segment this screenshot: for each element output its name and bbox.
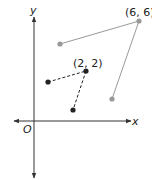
gray-point-vertex [136, 18, 141, 23]
black-segment [48, 71, 86, 82]
black-figure: (2, 2) [45, 57, 102, 113]
black-segment [73, 71, 86, 110]
gray-point [109, 96, 114, 101]
black-point [45, 79, 50, 84]
y-axis-label: y [29, 4, 37, 17]
gray-figure: (6, 6) [57, 6, 152, 102]
coordinate-diagram: y x O (6, 6) (2, 2) [0, 0, 152, 180]
black-vertex-label: (2, 2) [73, 57, 103, 70]
gray-segment [112, 21, 139, 99]
origin-label: O [23, 123, 32, 136]
black-point [70, 107, 75, 112]
gray-vertex-label: (6, 6) [125, 6, 152, 19]
gray-point [57, 41, 62, 46]
x-axis-label: x [131, 115, 139, 128]
gray-segment [60, 21, 139, 44]
